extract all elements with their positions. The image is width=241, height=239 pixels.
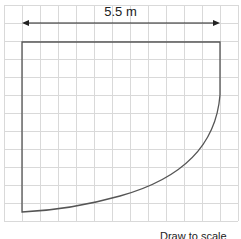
- arrow-right-icon: [213, 20, 220, 26]
- dimension-label: 5.5 m: [0, 4, 241, 19]
- grid-diagram: [0, 0, 241, 239]
- arrow-left-icon: [22, 20, 29, 26]
- width-dimension-arrow: [22, 20, 220, 26]
- grid-lines: [4, 5, 239, 222]
- footer-text: Draw to scale: [160, 230, 227, 239]
- floor-shape: [22, 42, 220, 212]
